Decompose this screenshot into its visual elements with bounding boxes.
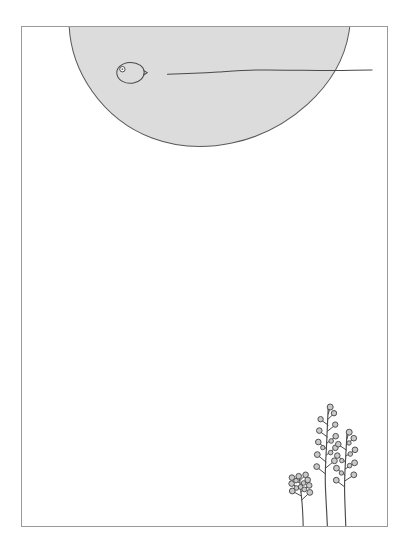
- plant-berry: [335, 453, 341, 459]
- plant-berry: [348, 452, 353, 457]
- plant-berry: [302, 487, 307, 492]
- plant-berry: [334, 465, 340, 471]
- plant-berry: [318, 417, 323, 422]
- plant-berry: [294, 486, 299, 491]
- plant-berry: [347, 441, 351, 445]
- plant-berry: [328, 450, 333, 455]
- plant-berry: [352, 460, 358, 466]
- plant-berry: [306, 483, 312, 489]
- artboard: [0, 0, 412, 556]
- plant-berry: [294, 478, 299, 483]
- plant-berry: [316, 439, 322, 445]
- plant-berry: [333, 422, 338, 427]
- plant-berry: [331, 411, 336, 416]
- plant-berry: [351, 472, 357, 478]
- fish-pupil-icon: [122, 68, 124, 70]
- plant-berry: [327, 404, 333, 410]
- plant-berry: [351, 435, 357, 441]
- plant-berry: [347, 463, 352, 468]
- plant-berry: [314, 452, 320, 458]
- drawing-canvas: [0, 0, 412, 556]
- plant-berry: [314, 464, 320, 470]
- plant-berry: [346, 429, 352, 435]
- plant-berry: [321, 445, 325, 449]
- plant-berry: [352, 447, 358, 453]
- plant-berry: [333, 477, 339, 483]
- plant-berry: [317, 428, 323, 434]
- plant-berry: [301, 481, 306, 486]
- plant-berry: [340, 458, 344, 462]
- plant-berry: [332, 458, 338, 464]
- plant-berry: [339, 471, 343, 475]
- plant-berry: [329, 439, 334, 444]
- plant-berry: [303, 472, 309, 478]
- plant-berry: [307, 490, 313, 496]
- plant-berry: [333, 433, 339, 439]
- plant-berry: [336, 441, 342, 447]
